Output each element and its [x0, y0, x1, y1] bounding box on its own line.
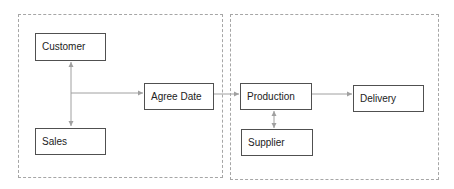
node-production: Production	[240, 83, 312, 110]
node-agree-date: Agree Date	[144, 83, 214, 110]
node-customer: Customer	[35, 33, 106, 61]
node-sales: Sales	[35, 128, 106, 155]
node-sales-label: Sales	[42, 136, 67, 147]
node-supplier: Supplier	[241, 129, 313, 156]
node-customer-label: Customer	[42, 41, 85, 52]
node-delivery: Delivery	[353, 85, 424, 112]
node-supplier-label: Supplier	[248, 137, 285, 148]
node-agree-date-label: Agree Date	[151, 91, 202, 102]
node-delivery-label: Delivery	[360, 93, 396, 104]
node-production-label: Production	[247, 91, 295, 102]
